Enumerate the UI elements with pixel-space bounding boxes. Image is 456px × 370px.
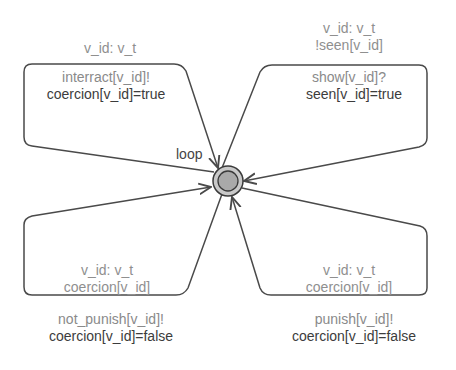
edge-update-label: coercion[v_id]=false [292, 328, 416, 345]
edge-update-label: seen[v_id]=true [306, 86, 402, 103]
edge-guard-label: coercion[v_id] [306, 279, 392, 296]
edge-guard-label: coercion[v_id] [64, 279, 150, 296]
edge-select-label: v_id: v_t [81, 262, 133, 279]
location-name: loop [176, 146, 202, 162]
edge-sync-label: punish[v_id]! [315, 311, 394, 328]
edge-select-label: v_id: v_t [323, 20, 375, 37]
edge-sync-label: interract[v_id]! [62, 69, 150, 86]
edge-update-label: coercion[v_id]=false [49, 328, 173, 345]
edge-sync-label: not_punish[v_id]! [58, 311, 164, 328]
edge-select-label: v_id: v_t [84, 40, 136, 57]
location-node-inner [218, 171, 238, 191]
edge-guard-label: !seen[v_id] [315, 37, 383, 54]
edge-select-label: v_id: v_t [323, 262, 375, 279]
edge-sync-label: show[v_id]? [312, 69, 386, 86]
edge-update-label: coercion[v_id]=true [47, 86, 166, 103]
